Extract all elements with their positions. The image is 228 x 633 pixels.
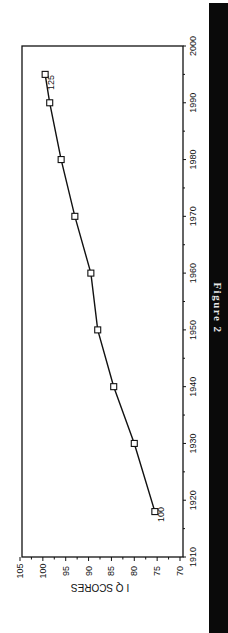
x-tick-label: 1930 [188, 433, 198, 453]
iq-series-line [45, 74, 155, 511]
y-tick-label: 105 [15, 563, 25, 578]
chart-figure: 1910192019301940195019601970198019902000… [0, 0, 228, 633]
data-point-marker [72, 213, 78, 219]
point-annotation: 100 [156, 507, 166, 522]
y-tick-label: 85 [106, 566, 116, 576]
data-point-marker [131, 440, 137, 446]
x-tick-label: 1980 [188, 150, 198, 170]
y-tick-label: 70 [175, 566, 185, 576]
data-point-marker [58, 157, 64, 163]
y-axis-label: I Q SCORES [71, 582, 130, 593]
y-tick-label: 80 [129, 566, 139, 576]
x-tick-label: 1960 [188, 263, 198, 283]
y-tick-label: 75 [152, 566, 162, 576]
y-tick-label: 95 [61, 566, 71, 576]
x-tick-label: 1910 [188, 547, 198, 567]
plot-frame [22, 46, 183, 557]
point-annotation: 125 [46, 75, 56, 90]
x-tick-label: 2000 [188, 36, 198, 56]
x-tick-label: 1950 [188, 320, 198, 340]
iq-line-chart: 1910192019301940195019601970198019902000… [0, 0, 228, 633]
x-tick-label: 1990 [188, 93, 198, 113]
y-tick-label: 100 [38, 563, 48, 578]
figure-caption: Figure 2 [212, 282, 224, 333]
x-tick-label: 1970 [188, 206, 198, 226]
x-tick-label: 1920 [188, 490, 198, 510]
data-point-marker [95, 327, 101, 333]
y-tick-label: 90 [84, 566, 94, 576]
data-point-marker [47, 100, 53, 106]
x-tick-label: 1940 [188, 377, 198, 397]
data-point-marker [111, 384, 117, 390]
data-point-marker [88, 270, 94, 276]
